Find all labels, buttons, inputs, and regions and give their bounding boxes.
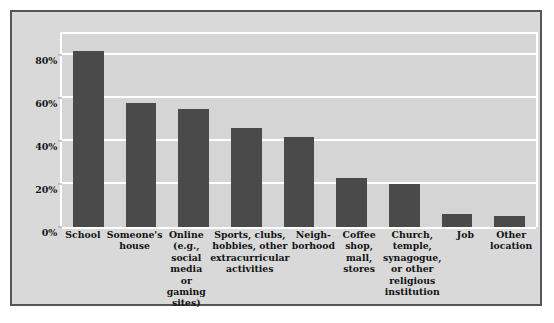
bar [284,137,315,227]
bar-chart-figure: 0%20%40%60%80% SchoolSomeone's houseOnli… [0,0,554,323]
bar [126,103,157,227]
x-axis-category-label: Other location [488,229,534,252]
bar-slot [378,34,431,227]
bar-slot [220,34,273,227]
y-axis-tick-mark [58,141,62,142]
bar-slot [62,34,115,227]
y-axis-tick-mark [58,55,62,56]
bar [178,109,209,227]
bar-slot [273,34,326,227]
bar [494,216,525,227]
bar [389,184,420,227]
x-axis-category-label: Sports, clubs, hobbies, other extracurri… [209,229,290,275]
x-axis-category-label: Coffee shop, mall, stores [336,229,382,275]
bar-slot [431,34,484,227]
figure-caption [12,315,442,323]
x-axis-category-label: School [60,229,106,240]
x-axis-category-label: Job [443,229,489,240]
bar-slot [115,34,168,227]
x-axis-category-label: Neigh-borhood [290,229,336,252]
y-axis-tick-mark [58,184,62,185]
y-axis-tick-mark [58,98,62,99]
bar [73,51,104,227]
chart-panel: 0%20%40%60%80% SchoolSomeone's houseOnli… [10,10,542,306]
x-axis-category-label: Someone's house [106,229,164,252]
plot-area: 0%20%40%60%80% [60,32,538,227]
bar-slot [167,34,220,227]
x-axis-category-label: Online (e.g., social media or gaming sit… [163,229,209,309]
x-axis-labels: SchoolSomeone's houseOnline (e.g., socia… [60,229,534,309]
bar [336,178,367,227]
x-axis-category-label: Church, temple, synagogue, or other reli… [382,229,443,297]
bar [231,128,262,227]
bars-group [62,34,536,227]
bar-slot [483,34,536,227]
bar [442,214,473,227]
bar-slot [325,34,378,227]
